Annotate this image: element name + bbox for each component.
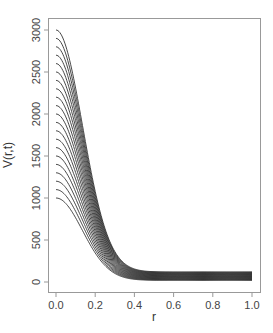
y-tick-label: 0 <box>30 279 42 285</box>
y-tick-label: 500 <box>30 231 42 249</box>
y-tick-label: 1500 <box>30 144 42 168</box>
data-curve <box>56 198 252 280</box>
y-tick-label: 2000 <box>30 102 42 126</box>
x-tick-label: 0.8 <box>205 299 220 311</box>
data-curve <box>56 89 252 275</box>
data-curve <box>56 97 252 275</box>
data-curve <box>56 80 252 274</box>
y-axis-label: V(r,t) <box>1 142 15 168</box>
data-curve <box>56 106 252 276</box>
x-tick-label: 1.0 <box>244 299 259 311</box>
x-tick-label: 0.0 <box>48 299 63 311</box>
y-tick-label: 1000 <box>30 186 42 210</box>
x-tick-label: 0.6 <box>166 299 181 311</box>
y-tick-label: 2500 <box>30 60 42 84</box>
x-tick-label: 0.2 <box>88 299 103 311</box>
x-axis-label: r <box>152 310 156 324</box>
y-axis: 050010001500200025003000 <box>30 18 49 285</box>
line-chart: 0.00.20.40.60.81.0 050010001500200025003… <box>0 0 273 333</box>
x-tick-label: 0.4 <box>127 299 142 311</box>
plot-frame <box>49 19 261 293</box>
curve-group <box>56 30 252 280</box>
y-tick-label: 3000 <box>30 18 42 42</box>
x-axis: 0.00.20.40.60.81.0 <box>48 293 259 312</box>
